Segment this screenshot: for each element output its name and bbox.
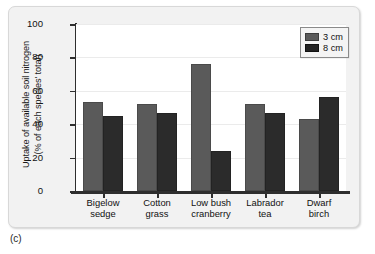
gridline <box>76 24 346 25</box>
figure-panel: Uptake of available soil nitrogen (% of … <box>8 6 360 228</box>
x-axis-label: Labrador tea <box>238 198 292 219</box>
bar-8cm <box>103 116 123 191</box>
legend: 3 cm8 cm <box>300 27 349 58</box>
legend-swatch <box>305 44 319 52</box>
bar-8cm <box>319 97 339 191</box>
y-tick-mark <box>70 158 75 160</box>
y-tick-label: 0 <box>3 185 43 196</box>
y-tick-label: 100 <box>3 18 43 29</box>
legend-item: 8 cm <box>305 43 343 53</box>
figure-caption: (c) <box>10 233 22 244</box>
x-axis-label: Dwarf birch <box>292 198 346 219</box>
bar-chart: Uptake of available soil nitrogen (% of … <box>9 7 361 229</box>
y-tick-mark <box>70 191 75 193</box>
legend-label: 8 cm <box>323 43 343 53</box>
y-tick-mark <box>70 124 75 126</box>
y-tick-mark <box>70 57 75 59</box>
bar-3cm <box>191 64 211 191</box>
x-axis-label: Cotton grass <box>130 198 184 219</box>
y-tick-mark <box>70 91 75 93</box>
x-axis-label: Low bush cranberry <box>184 198 238 219</box>
y-tick-label: 40 <box>3 118 43 129</box>
bar-3cm <box>83 102 103 191</box>
x-axis-label: Bigelow sedge <box>76 198 130 219</box>
y-tick-label: 20 <box>3 152 43 163</box>
bar-3cm <box>137 104 157 191</box>
bar-8cm <box>157 113 177 191</box>
y-tick-label: 60 <box>3 85 43 96</box>
gridline <box>76 91 346 92</box>
y-tick-mark <box>70 24 75 26</box>
legend-item: 3 cm <box>305 32 343 42</box>
bar-8cm <box>211 151 231 191</box>
legend-label: 3 cm <box>323 32 343 42</box>
bar-3cm <box>245 104 265 191</box>
bar-3cm <box>299 119 319 191</box>
legend-swatch <box>305 33 319 41</box>
y-tick-label: 80 <box>3 51 43 62</box>
bar-8cm <box>265 113 285 191</box>
y-axis-title: Uptake of available soil nitrogen (% of … <box>21 17 44 192</box>
